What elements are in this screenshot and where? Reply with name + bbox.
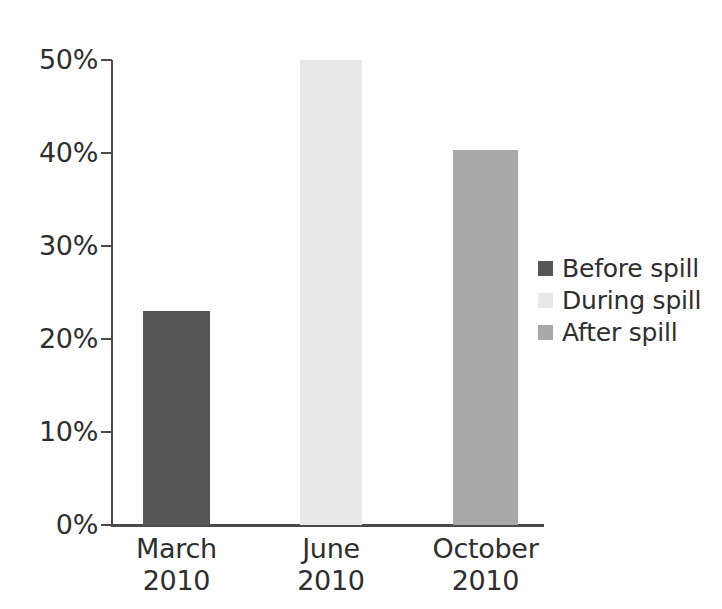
bar[interactable] [300,60,362,525]
bar-chart: 50%40%30%20%10%0% March2010June2010Octob… [0,0,722,609]
x-axis-label-month: March [136,533,217,564]
legend-swatch-icon [538,293,553,308]
legend-item[interactable]: Before spill [538,252,701,284]
x-axis-label-year: 2010 [87,565,267,597]
chart-legend: Before spillDuring spillAfter spill [538,252,701,348]
legend-swatch-icon [538,261,553,276]
x-axis-tick-label: June2010 [241,533,421,597]
legend-item[interactable]: After spill [538,316,701,348]
legend-item[interactable]: During spill [538,284,701,316]
bar[interactable] [453,150,518,525]
legend-item-label: During spill [562,288,701,313]
legend-item-label: Before spill [562,256,699,281]
plot-area [112,60,544,525]
x-axis-label-year: 2010 [241,565,421,597]
y-axis-tick-label: 40% [0,139,112,166]
x-axis-tick-label: October2010 [396,533,576,597]
bar[interactable] [143,311,210,525]
y-axis-tick-label: 20% [0,325,112,352]
x-axis-label-year: 2010 [396,565,576,597]
y-axis-tick-label: 30% [0,232,112,259]
legend-item-label: After spill [562,320,678,345]
x-axis-label-month: June [302,533,360,564]
legend-swatch-icon [538,325,553,340]
x-axis-tick-label: March2010 [87,533,267,597]
y-axis-tick-label: 10% [0,418,112,445]
x-axis-label-month: October [433,533,539,564]
y-axis-tick-label: 50% [0,46,112,73]
